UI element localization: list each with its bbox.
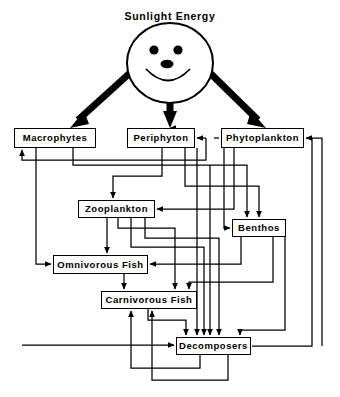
node-phytoplankton[interactable]: Phytoplankton <box>221 128 304 148</box>
node-periphyton[interactable]: Periphyton <box>127 128 195 148</box>
sun-icon-layer <box>0 0 340 397</box>
node-carnivorous-fish[interactable]: Carnivorous Fish <box>101 291 197 309</box>
node-omnivorous-fish[interactable]: Omnivorous Fish <box>53 255 148 274</box>
node-label: Carnivorous Fish <box>106 295 193 305</box>
node-macrophytes[interactable]: Macrophytes <box>14 128 96 148</box>
node-label: Omnivorous Fish <box>57 260 143 270</box>
node-benthos[interactable]: Benthos <box>232 219 286 237</box>
food-web-diagram: Sunlight Energy Macrophytes Periphyton P… <box>0 0 340 397</box>
sun-nose <box>161 60 174 68</box>
node-label: Benthos <box>238 223 280 233</box>
sun-eye-right <box>173 45 182 54</box>
node-decomposers[interactable]: Decomposers <box>176 337 251 355</box>
node-label: Phytoplankton <box>226 133 299 143</box>
node-label: Zooplankton <box>85 204 148 214</box>
sun-face-icon <box>127 23 213 103</box>
sun-eye-left <box>149 45 158 54</box>
node-label: Macrophytes <box>23 133 88 143</box>
node-zooplankton[interactable]: Zooplankton <box>78 200 155 218</box>
node-label: Decomposers <box>179 341 248 351</box>
node-label: Periphyton <box>133 133 188 143</box>
